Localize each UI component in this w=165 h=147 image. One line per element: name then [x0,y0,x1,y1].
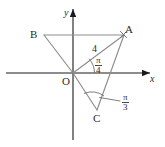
x-axis-label: x [150,74,154,84]
angle-label-pi-over-4: π 4 [95,56,102,76]
geometry-figure: A B C O y x 4 π 4 π 3 [0,0,165,147]
point-label-C: C [93,113,100,124]
y-axis-arrowhead [70,9,76,17]
x-axis-arrowhead [142,70,150,76]
angle-origin-denominator: 4 [95,65,102,75]
angle-c-leader-line [100,98,121,102]
origin-label-O: O [62,76,70,87]
point-label-A: A [125,24,133,35]
angle-origin-numerator: π [95,56,102,65]
angle-label-pi-over-3: π 3 [122,93,129,113]
segment-length-label-OA: 4 [92,44,97,54]
segment-BO [44,35,73,73]
figure-canvas [0,0,165,147]
angle-c-denominator: 3 [122,102,129,112]
y-axis-label: y [64,8,68,18]
angle-c-numerator: π [122,93,129,102]
point-label-B: B [30,29,37,40]
